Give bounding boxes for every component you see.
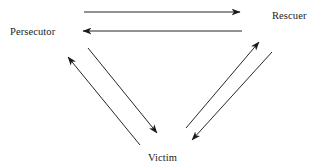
- arrow-victim-to-persecutor: [68, 57, 140, 145]
- arrow-victim-to-rescuer: [186, 42, 259, 128]
- node-label-rescuer: Rescuer: [272, 10, 307, 22]
- drama-triangle-diagram: Persecutor Rescuer Victim: [0, 0, 327, 168]
- arrow-persecutor-to-victim: [88, 48, 157, 133]
- arrow-rescuer-to-victim: [192, 52, 272, 140]
- node-label-persecutor: Persecutor: [10, 26, 55, 38]
- node-label-victim: Victim: [148, 152, 177, 164]
